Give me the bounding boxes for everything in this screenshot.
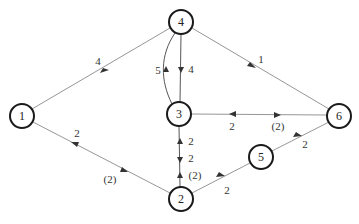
edge-label-6-3: 2 xyxy=(229,120,235,132)
arrow-2-3-upper xyxy=(177,138,183,144)
edge-label-3-2: 2 xyxy=(188,152,194,164)
edge-1-4 xyxy=(32,28,170,109)
arrow-2-1 xyxy=(71,142,79,147)
node-5: 5 xyxy=(249,145,273,169)
svg-text:6: 6 xyxy=(336,109,342,123)
edge-label-2-3-b: (2) xyxy=(189,169,202,182)
edge-4-6 xyxy=(192,28,329,109)
edge-label-2-5: 2 xyxy=(224,184,230,196)
arrow-3-6 xyxy=(274,112,281,118)
network-diagram: 4 1 4 5 2 (2) 2 (2) 2 2 (2) 2 2 1 2 3 4 … xyxy=(0,0,359,224)
node-6: 6 xyxy=(327,104,351,128)
edge-label-4-6: 1 xyxy=(258,53,264,65)
svg-text:3: 3 xyxy=(176,107,182,121)
edge-3-6 xyxy=(191,114,327,115)
edge-label-2-1: 2 xyxy=(74,127,80,139)
edge-1-2 xyxy=(33,122,170,193)
node-4: 4 xyxy=(169,10,193,34)
edge-label-3-6: (2) xyxy=(272,120,285,133)
edge-label-1-2: (2) xyxy=(104,173,117,186)
edge-label-1-4: 4 xyxy=(95,55,101,67)
svg-text:2: 2 xyxy=(178,192,184,206)
edge-label-4-3: 4 xyxy=(188,63,194,75)
node-2: 2 xyxy=(169,187,193,211)
arrow-3-2 xyxy=(177,157,183,163)
arrow-6-3 xyxy=(229,111,236,117)
svg-text:1: 1 xyxy=(19,109,25,123)
svg-text:5: 5 xyxy=(258,150,264,164)
edge-label-3-4: 5 xyxy=(155,64,161,76)
svg-text:4: 4 xyxy=(178,15,184,29)
node-3: 3 xyxy=(167,102,191,126)
edge-label-2-3-a: 2 xyxy=(188,135,194,147)
node-1: 1 xyxy=(10,104,34,128)
arrow-2-3-lower xyxy=(177,172,183,178)
edge-label-5-6: 2 xyxy=(302,138,308,150)
arrow-4-3 xyxy=(178,67,184,73)
